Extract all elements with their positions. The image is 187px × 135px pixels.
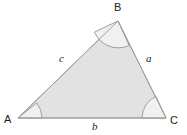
vertex-label-b: B xyxy=(114,2,121,13)
side-label-a: a xyxy=(146,53,152,64)
vertex-label-c: C xyxy=(170,115,178,126)
triangle-body xyxy=(18,21,166,118)
vertex-label-a: A xyxy=(4,114,11,125)
angle-arc-vertex-a xyxy=(18,103,42,118)
triangle-diagram: A B C a b c xyxy=(0,0,187,135)
triangle-figure-svg xyxy=(0,0,187,135)
side-label-b: b xyxy=(92,121,98,132)
side-label-c: c xyxy=(59,53,64,64)
